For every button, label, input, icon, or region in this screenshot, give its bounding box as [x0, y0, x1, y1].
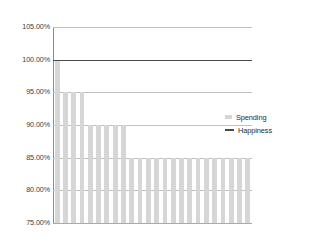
legend-label-spending: Spending [236, 113, 266, 122]
bar [171, 158, 176, 223]
bar [121, 125, 126, 223]
bar [88, 125, 93, 223]
bar [80, 92, 85, 223]
bar [237, 158, 242, 223]
legend-label-happiness: Happiness [238, 126, 272, 135]
plot-area [53, 27, 252, 223]
y-axis-tick-label: 105.00% [4, 23, 50, 31]
bar [113, 125, 118, 223]
bar [138, 158, 143, 223]
bar [104, 125, 109, 223]
line-swatch-icon [225, 129, 234, 131]
bar-swatch-icon [225, 115, 232, 119]
chart-container: 105.00%100.00%95.00%90.00%85.00%80.00%75… [0, 0, 319, 248]
bar [212, 158, 217, 223]
y-axis-tick-label: 80.00% [4, 186, 50, 194]
y-axis-tick-label: 85.00% [4, 154, 50, 162]
line-series-happiness [53, 60, 252, 62]
y-axis-tick-label: 75.00% [4, 219, 50, 227]
bar [196, 158, 201, 223]
gridline [53, 223, 252, 224]
y-axis-tick-label: 90.00% [4, 121, 50, 129]
bar [129, 158, 134, 223]
bar [96, 125, 101, 223]
bar [163, 158, 168, 223]
bar [154, 158, 159, 223]
bar [179, 158, 184, 223]
legend-item-happiness[interactable]: Happiness [225, 125, 272, 135]
bar-series-spending [53, 27, 252, 223]
y-axis-tick-label: 100.00% [4, 56, 50, 64]
bar [63, 92, 68, 223]
bar [221, 158, 226, 223]
bar [204, 158, 209, 223]
chart-legend: Spending Happiness [225, 112, 272, 135]
bar [187, 158, 192, 223]
bar [55, 60, 60, 223]
bar [229, 158, 234, 223]
y-axis-tick-label: 95.00% [4, 88, 50, 96]
legend-item-spending[interactable]: Spending [225, 112, 272, 122]
y-axis-tick-labels: 105.00%100.00%95.00%90.00%85.00%80.00%75… [0, 0, 50, 248]
bar [146, 158, 151, 223]
bar [71, 92, 76, 223]
bar [245, 158, 250, 223]
